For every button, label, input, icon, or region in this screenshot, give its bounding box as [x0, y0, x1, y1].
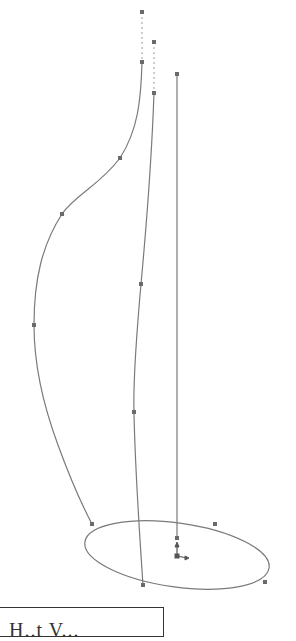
- control-point[interactable]: [152, 91, 156, 95]
- origin-icon: [175, 542, 189, 560]
- control-point[interactable]: [140, 10, 144, 14]
- middle-guide-curve: [134, 93, 154, 585]
- control-point[interactable]: [60, 212, 64, 216]
- control-point[interactable]: [132, 410, 136, 414]
- control-point[interactable]: [118, 156, 122, 160]
- control-point[interactable]: [213, 522, 217, 526]
- control-point[interactable]: [175, 72, 179, 76]
- view-label-box: H..t V...: [0, 607, 164, 637]
- control-point[interactable]: [141, 583, 145, 587]
- control-point[interactable]: [175, 536, 179, 540]
- control-point[interactable]: [32, 323, 36, 327]
- left-guide-curve: [34, 62, 142, 524]
- view-label-text: H..t V...: [9, 619, 80, 641]
- control-point[interactable]: [140, 60, 144, 64]
- control-point[interactable]: [139, 282, 143, 286]
- control-point[interactable]: [152, 40, 156, 44]
- control-point[interactable]: [90, 522, 94, 526]
- control-point[interactable]: [263, 580, 267, 584]
- control-points: [32, 10, 267, 587]
